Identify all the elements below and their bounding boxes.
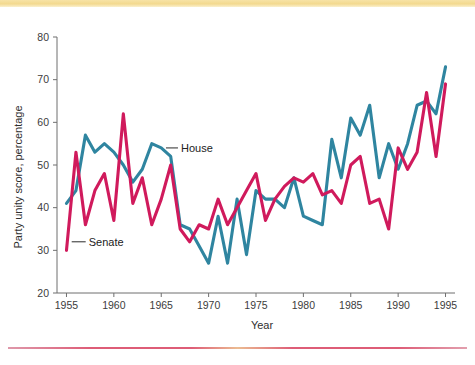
x-axis-title: Year <box>251 319 274 331</box>
data-series-lines <box>66 67 445 263</box>
house-series-label: House <box>181 142 213 154</box>
y-tick-label: 20 <box>37 287 49 299</box>
x-tick-label: 1990 <box>386 299 410 311</box>
x-tick-label: 1975 <box>244 299 268 311</box>
chart-svg: 20304050607080 1955196019651970197519801… <box>0 7 475 342</box>
x-tick-label: 1960 <box>102 299 126 311</box>
top-decorative-band <box>0 0 475 7</box>
bottom-decorative-rule <box>8 347 467 349</box>
y-tick-label: 50 <box>37 159 49 171</box>
x-tick-label: 1985 <box>339 299 363 311</box>
x-axis-tick-labels: 195519601965197019751980198519901995 <box>55 299 458 311</box>
x-tick-label: 1965 <box>150 299 174 311</box>
y-tick-label: 30 <box>37 244 49 256</box>
party-unity-line-chart: 20304050607080 1955196019651970197519801… <box>0 7 475 342</box>
x-tick-label: 1980 <box>292 299 316 311</box>
y-axis-title: Party unity score, percentage <box>12 105 24 248</box>
x-tick-label: 1970 <box>197 299 221 311</box>
x-tick-label: 1995 <box>434 299 458 311</box>
x-tick-marks <box>66 293 445 297</box>
senate-series-label: Senate <box>89 236 124 248</box>
y-tick-marks <box>53 37 57 293</box>
y-axis-tick-labels: 20304050607080 <box>37 31 49 299</box>
y-tick-label: 40 <box>37 201 49 213</box>
y-tick-label: 70 <box>37 73 49 85</box>
y-tick-label: 60 <box>37 116 49 128</box>
x-tick-label: 1955 <box>55 299 79 311</box>
series-line-house <box>66 67 445 263</box>
y-tick-label: 80 <box>37 31 49 43</box>
